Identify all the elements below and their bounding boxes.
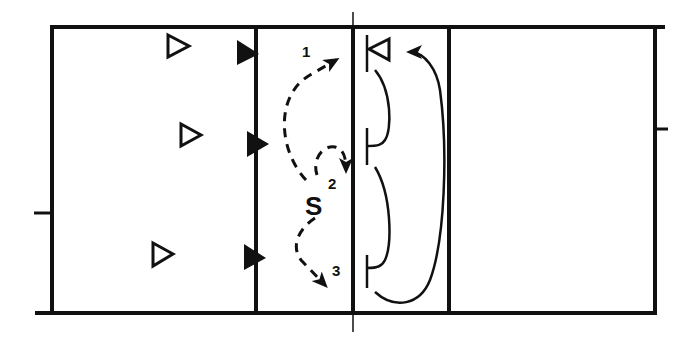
- player-open-triangle-icon: [181, 124, 201, 146]
- route-2-label: 2: [328, 175, 336, 192]
- route-1-label: 1: [302, 43, 310, 60]
- volleyball-play-diagram: 1 2 3 S: [0, 0, 695, 344]
- setter-label: S: [305, 191, 322, 221]
- blocker-routes: [367, 35, 444, 303]
- route-3-label: 3: [332, 262, 340, 279]
- opposing-blocker-triangle-icon: [369, 39, 389, 60]
- route-1: [284, 60, 336, 180]
- player-open-triangle-icon: [168, 35, 189, 57]
- block-shift-2: [367, 167, 389, 268]
- front-row-players: [237, 40, 269, 270]
- route-2: [316, 147, 346, 175]
- route-3: [296, 218, 325, 285]
- player-open-triangle-icon: [153, 243, 173, 266]
- block-shift-1: [367, 70, 389, 146]
- setter-routes: [284, 60, 346, 285]
- back-row-players: [153, 35, 201, 266]
